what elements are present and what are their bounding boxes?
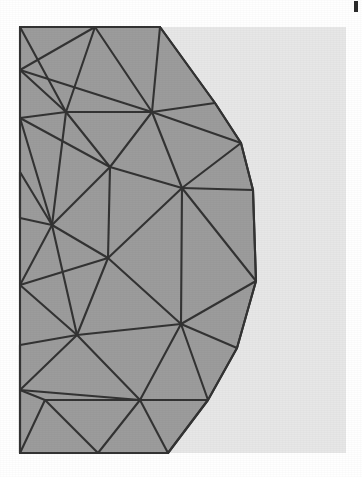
mesh-figure-canvas bbox=[0, 0, 362, 477]
figure-page bbox=[0, 0, 362, 477]
mesh-edge bbox=[181, 188, 182, 324]
corner-tick-mark bbox=[354, 1, 358, 12]
